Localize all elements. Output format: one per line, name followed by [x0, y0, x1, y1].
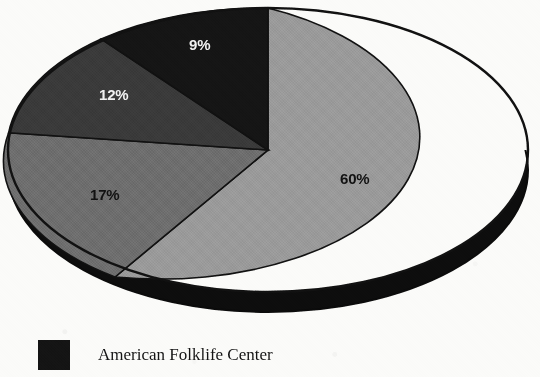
pie-chart-svg	[0, 0, 540, 325]
pie-label-17: 17%	[90, 186, 119, 203]
pie-label-9: 9%	[189, 36, 210, 53]
chart-legend: American Folklife Center	[0, 325, 540, 377]
pie-label-60: 60%	[340, 170, 369, 187]
legend-item-label: American Folklife Center	[98, 345, 273, 365]
pie-label-12: 12%	[99, 86, 128, 103]
legend-swatch-icon	[38, 340, 70, 370]
pie-chart-figure: 60% 17% 12% 9% American Folklife Center	[0, 0, 540, 377]
legend-item-american-folklife-center[interactable]: American Folklife Center	[38, 340, 273, 370]
chart-plot-area: 60% 17% 12% 9%	[0, 0, 540, 325]
